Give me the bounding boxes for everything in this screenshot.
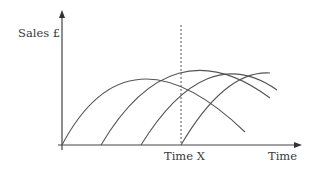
sales-curve-1 [62, 79, 245, 145]
time-x-label: Time X [164, 149, 205, 163]
y-axis-label: Sales £ [18, 26, 60, 40]
y-axis-arrow-icon [59, 10, 65, 18]
sales-curve-4 [181, 73, 270, 145]
x-axis-arrow-icon [294, 142, 302, 148]
sales-curve-3 [141, 74, 277, 145]
curves-group [62, 70, 277, 145]
x-axis-label: Time [268, 149, 297, 163]
